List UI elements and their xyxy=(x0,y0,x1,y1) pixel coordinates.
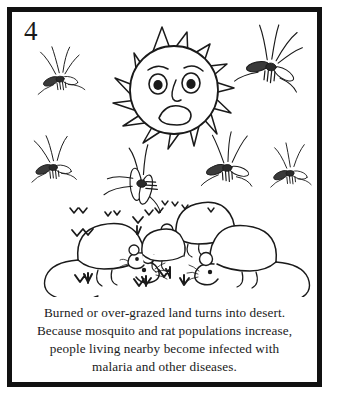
mosquito-icon xyxy=(32,43,85,96)
caption-line-4: malaria and other diseases. xyxy=(18,358,311,376)
mosquito-icon xyxy=(103,142,165,213)
sad-sun-icon xyxy=(113,27,234,149)
mosquito-icon xyxy=(198,131,252,190)
panel-content: 4 xyxy=(12,12,317,382)
illustration-panel: 4 xyxy=(0,0,337,401)
grass-tuft-icon xyxy=(180,275,189,285)
grass-tuft-icon xyxy=(145,208,163,215)
grass-tuft-icon xyxy=(75,273,92,283)
caption-text: Burned or over-grazed land turns into de… xyxy=(12,304,317,376)
caption-line-2: Because mosquito and rat populations inc… xyxy=(18,322,311,340)
mosquito-icon xyxy=(27,133,76,184)
mosquito-icon xyxy=(234,21,304,92)
panel-border: 4 xyxy=(7,7,322,387)
caption-line-3: people living nearby become infected wit… xyxy=(18,340,311,358)
mosquito-icon xyxy=(266,141,311,189)
grass-tuft-icon xyxy=(162,201,188,209)
caption-line-1: Burned or over-grazed land turns into de… xyxy=(18,304,311,322)
illustration-artwork xyxy=(12,12,317,297)
grass-tuft-icon xyxy=(105,211,120,216)
grass-tuft-icon xyxy=(70,208,87,213)
